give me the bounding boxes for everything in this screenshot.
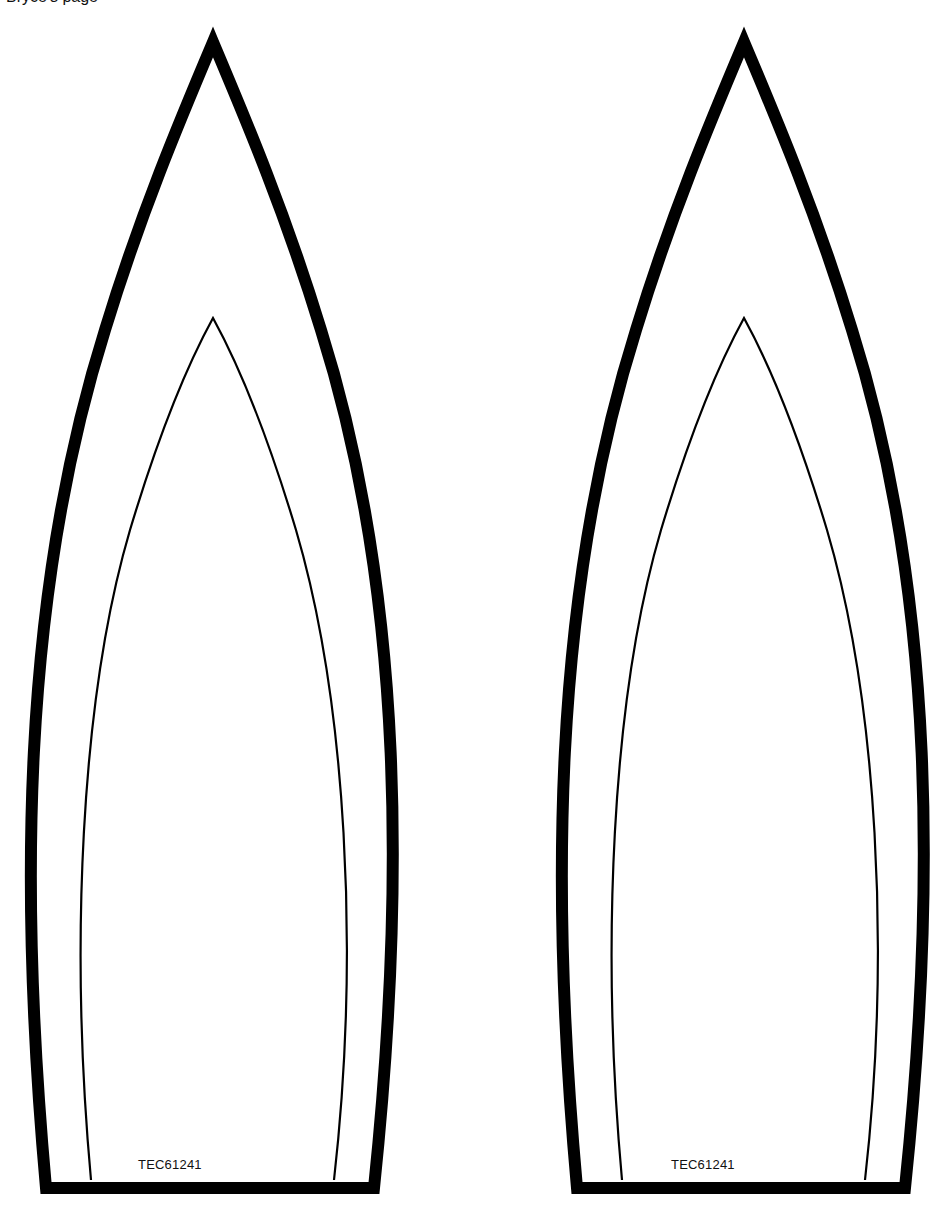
right-flame-shape — [562, 42, 924, 1188]
right-inner-outline — [612, 318, 878, 1180]
cutout-template-drawing — [0, 0, 951, 1213]
right-template-code: TEC61241 — [671, 1157, 735, 1172]
left-inner-outline — [81, 318, 347, 1180]
left-outer-outline — [31, 42, 393, 1188]
left-flame-shape — [31, 42, 393, 1188]
left-template-code: TEC61241 — [138, 1157, 202, 1172]
right-outer-outline — [562, 42, 924, 1188]
